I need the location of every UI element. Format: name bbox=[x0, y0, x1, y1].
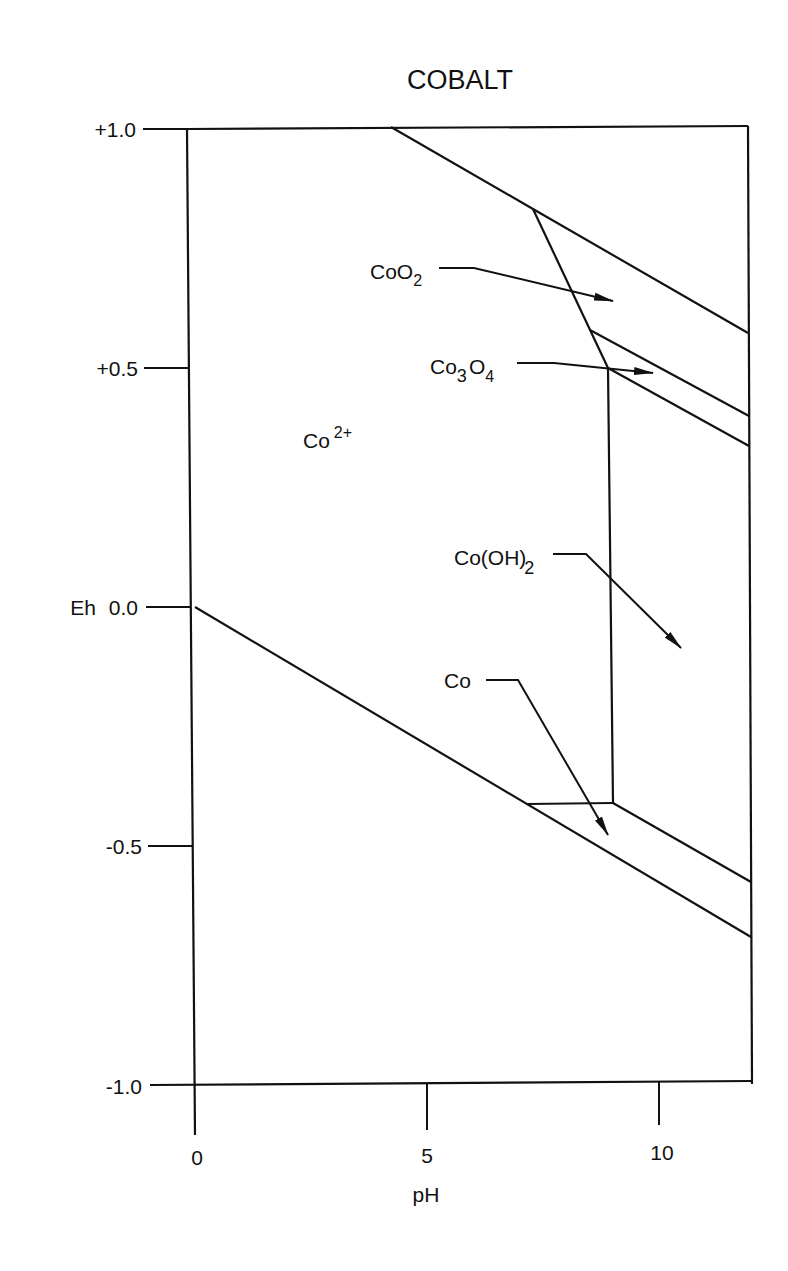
boundary-coo2-co2plus bbox=[533, 209, 608, 368]
y-axis-title: Eh bbox=[70, 596, 96, 619]
frame-bottom bbox=[150, 1081, 752, 1085]
label-co: Co bbox=[444, 669, 471, 692]
x-label-0: 0 bbox=[191, 1146, 203, 1169]
x-label-10: 10 bbox=[650, 1141, 673, 1164]
y-axis-ticks bbox=[143, 129, 193, 846]
y-label-0-5: +0.5 bbox=[97, 357, 138, 380]
frame-top bbox=[187, 126, 748, 129]
boundary-water-lower bbox=[195, 607, 751, 937]
boundary-co2plus-cooh2 bbox=[608, 368, 613, 803]
y-label-neg-1-0: -1.0 bbox=[106, 1075, 142, 1098]
label-cooh2: Co(OH)2 bbox=[454, 546, 534, 578]
species-labels: Co2+ CoO2 Co3O4 Co(OH)2 Co bbox=[303, 260, 534, 692]
frame-right bbox=[748, 126, 752, 1084]
x-axis-ticks bbox=[427, 1081, 659, 1130]
label-coo2: CoO2 bbox=[370, 260, 422, 289]
x-label-5: 5 bbox=[421, 1144, 433, 1167]
y-label-0-0: 0.0 bbox=[109, 596, 138, 619]
arrow-co bbox=[486, 680, 608, 835]
frame-left-axis bbox=[187, 129, 195, 1135]
boundary-water-upper bbox=[391, 127, 748, 333]
pourbaix-diagram: COBALT +1.0 +0.5 0.0 Eh -0.5 -1.0 0 5 10… bbox=[0, 0, 788, 1271]
x-axis-title: pH bbox=[413, 1183, 440, 1206]
x-axis-labels: 0 5 10 pH bbox=[191, 1141, 674, 1206]
boundary-cooh2-co bbox=[613, 803, 751, 882]
y-label-1-0: +1.0 bbox=[95, 118, 136, 141]
y-label-neg-0-5: -0.5 bbox=[106, 835, 142, 858]
plot-frame bbox=[150, 126, 752, 1135]
arrow-cooh2 bbox=[553, 554, 681, 648]
label-co3o4: Co3O4 bbox=[430, 355, 494, 386]
chart-title: COBALT bbox=[407, 65, 513, 95]
boundary-co3o4-cooh2 bbox=[608, 368, 749, 446]
arrow-co3o4 bbox=[517, 363, 653, 373]
boundary-co2plus-co bbox=[527, 803, 613, 804]
stability-boundaries bbox=[195, 127, 751, 937]
label-co2plus: Co2+ bbox=[303, 424, 352, 452]
y-axis-labels: +1.0 +0.5 0.0 Eh -0.5 -1.0 bbox=[70, 118, 142, 1098]
arrow-coo2 bbox=[439, 268, 613, 301]
